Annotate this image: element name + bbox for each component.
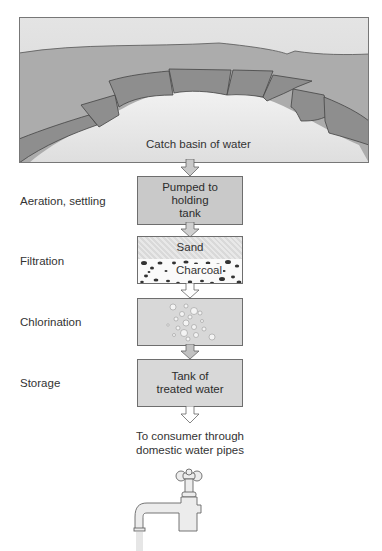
consumer-destination-text: To consumer through domestic water pipes xyxy=(110,429,270,457)
holding-tank-box: Pumped to holding tank xyxy=(137,176,243,225)
consumer-line-1: To consumer through xyxy=(110,429,270,443)
flow-arrow-4 xyxy=(180,344,200,360)
stage-label-chlorination: Chlorination xyxy=(20,316,81,328)
flow-arrow-5 xyxy=(180,406,200,424)
holding-tank-line-3: tank xyxy=(162,207,218,220)
stage-label-storage: Storage xyxy=(20,377,60,389)
consumer-line-2: domestic water pipes xyxy=(110,443,270,457)
holding-tank-line-2: holding xyxy=(162,194,218,207)
storage-tank-line-1: Tank of xyxy=(156,370,223,383)
catch-basin-illustration: Catch basin of water xyxy=(19,17,369,163)
catch-basin-label: Catch basin of water xyxy=(146,138,251,150)
chlorination-box xyxy=(137,298,243,346)
sand-label: Sand xyxy=(138,241,242,253)
chlorine-bubbles-icon xyxy=(138,299,242,345)
stage-label-filtration: Filtration xyxy=(20,255,64,267)
storage-tank-box: Tank of treated water xyxy=(137,359,243,407)
filter-box: Sand Charcoal xyxy=(137,236,243,284)
holding-tank-line-1: Pumped to xyxy=(162,181,218,194)
charcoal-label: Charcoal xyxy=(175,264,223,276)
storage-tank-line-2: treated water xyxy=(156,383,223,396)
water-faucet-icon xyxy=(133,465,223,551)
flow-arrow-3 xyxy=(180,283,200,299)
flow-arrow-1 xyxy=(180,159,200,177)
stage-label-aeration: Aeration, settling xyxy=(20,195,106,207)
